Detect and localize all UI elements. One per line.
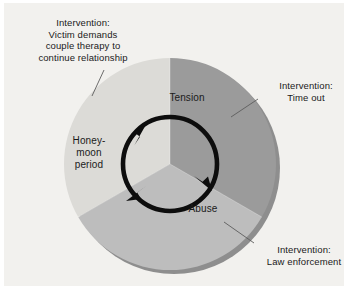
segment-label-abuse: Abuse xyxy=(176,203,230,215)
callout-intervention-time-out: Intervention: Time out xyxy=(258,80,354,103)
segment-label-honeymoon: Honey- moon period xyxy=(62,135,116,171)
callout-intervention-law-enforcement: Intervention: Law enforcement xyxy=(252,244,356,267)
callout-intervention-therapy: Intervention: Victim demands couple ther… xyxy=(14,17,152,63)
diagram-canvas: Tension Abuse Honey- moon period Interve… xyxy=(0,0,358,294)
segment-label-tension: Tension xyxy=(158,92,216,104)
